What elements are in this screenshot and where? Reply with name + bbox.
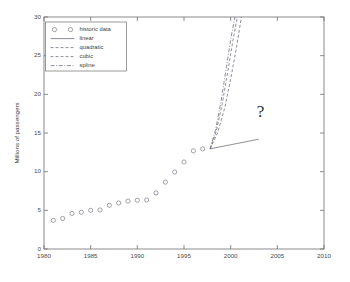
x-tick-label: 2005 xyxy=(270,252,284,259)
legend-label-historic data: historic data xyxy=(80,26,112,32)
data-point xyxy=(126,199,130,203)
legend-label-quadratic: quadratic xyxy=(80,44,104,50)
y-tick-label: 5 xyxy=(38,206,42,213)
series-linear xyxy=(210,139,259,149)
y-tick-label: 30 xyxy=(34,13,41,20)
figure-container: 1980198519901995200020052010 05101520253… xyxy=(0,0,350,282)
y-tick-label: 20 xyxy=(34,90,41,97)
series-lines xyxy=(210,17,259,149)
data-point xyxy=(191,149,195,153)
data-point xyxy=(135,198,139,202)
x-tick-label: 2010 xyxy=(317,252,331,259)
data-point xyxy=(98,208,102,212)
y-tick-label: 0 xyxy=(38,245,42,252)
data-point xyxy=(61,216,65,220)
data-point xyxy=(79,210,83,214)
y-axis-title: Millions of passengers xyxy=(13,102,20,163)
y-axis-tick-labels: 051015202530 xyxy=(34,13,41,252)
question-mark-annotation: ? xyxy=(257,102,265,121)
data-point xyxy=(107,203,111,207)
x-tick-label: 1980 xyxy=(37,252,51,259)
data-point xyxy=(163,180,167,184)
data-point xyxy=(89,208,93,212)
y-tick-label: 15 xyxy=(34,129,41,136)
x-tick-label: 1985 xyxy=(84,252,98,259)
data-point xyxy=(154,191,158,195)
series-spline xyxy=(210,17,235,149)
chart-canvas: 1980198519901995200020052010 05101520253… xyxy=(0,0,350,282)
data-point xyxy=(173,170,177,174)
x-axis-tick-labels: 1980198519901995200020052010 xyxy=(37,252,331,259)
data-point xyxy=(70,211,74,215)
y-tick-label: 25 xyxy=(34,51,41,58)
data-point xyxy=(201,147,205,151)
legend[interactable]: historic datalinearquadraticcubicspline xyxy=(46,22,127,71)
legend-label-cubic: cubic xyxy=(80,53,94,59)
y-tick-label: 10 xyxy=(34,167,41,174)
historic-data-markers xyxy=(51,147,205,223)
x-tick-label: 2000 xyxy=(224,252,238,259)
data-point xyxy=(51,218,55,222)
data-point xyxy=(117,201,121,205)
x-tick-label: 1990 xyxy=(130,252,144,259)
data-point xyxy=(182,160,186,164)
legend-label-linear: linear xyxy=(80,35,94,41)
x-tick-label: 1995 xyxy=(177,252,191,259)
chart-annotations: ? xyxy=(257,102,265,121)
legend-label-spline: spline xyxy=(80,62,95,68)
data-point xyxy=(145,198,149,202)
